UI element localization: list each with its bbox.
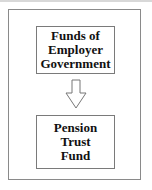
top-border-line [0,0,152,2]
target-box-pension-trust-fund: Pension Trust Fund [36,115,115,169]
source-box-employer-government: Funds of Employer Government [36,26,115,74]
source-box-label: Funds of Employer Government [40,29,110,71]
target-box-label: Pension Trust Fund [54,121,97,163]
down-arrow-icon [65,79,87,109]
